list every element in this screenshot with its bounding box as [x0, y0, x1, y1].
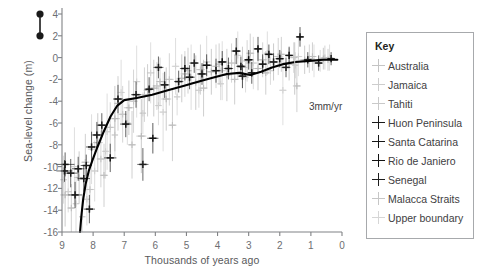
x-tick-label: 2	[265, 240, 295, 251]
legend-marker-plus-icon	[371, 134, 386, 149]
y-axis-title: Sea-level change (m)	[22, 31, 34, 191]
legend-marker-plus-icon	[371, 172, 386, 187]
x-tick-label: 4	[203, 240, 233, 251]
legend-item-label: Senegal	[388, 174, 427, 186]
legend-item-tahiti[interactable]: Tahiti	[367, 94, 473, 113]
x-axis-tick-labels: 9876543210	[0, 236, 481, 256]
legend-marker-plus-icon	[371, 77, 386, 92]
x-axis-title: Thousands of years ago	[62, 254, 342, 266]
legend-marker-plus-icon	[371, 115, 386, 130]
x-tick-label: 6	[140, 240, 170, 251]
legend-marker-plus-icon	[371, 210, 386, 225]
y-tick-label: 4	[18, 9, 58, 20]
x-tick-label: 9	[47, 240, 77, 251]
legend-item-senegal[interactable]: Senegal	[367, 170, 473, 189]
x-tick-label: 3	[234, 240, 264, 251]
legend-box: Key AustraliaJamaicaTahitiHuon Peninsula…	[366, 32, 474, 239]
x-tick-label: 8	[78, 240, 108, 251]
x-tick-label: 5	[171, 240, 201, 251]
x-tick-label: 7	[109, 240, 139, 251]
y-axis-tick-labels: 420-2-4-6-8-10-12-14-16	[14, 0, 58, 275]
legend-marker-plus-icon	[371, 58, 386, 73]
legend-item-rio-de-janiero[interactable]: Rio de Janiero	[367, 151, 473, 170]
legend-item-huon-peninsula[interactable]: Huon Peninsula	[367, 113, 473, 132]
x-tick-label: 0	[327, 240, 357, 251]
legend-item-label: Malacca Straits	[388, 193, 460, 205]
sea-level-chart-figure: 420-2-4-6-8-10-12-14-16 9876543210 Sea-l…	[0, 0, 481, 275]
legend-item-label: Huon Peninsula	[388, 117, 462, 129]
rate-annotation: 3mm/yr	[309, 101, 342, 112]
legend-item-label: Santa Catarina	[388, 136, 458, 148]
legend-item-malacca-straits[interactable]: Malacca Straits	[367, 189, 473, 208]
legend-item-label: Rio de Janiero	[388, 155, 456, 167]
legend-marker-plus-icon	[371, 153, 386, 168]
legend-item-upper-boundary[interactable]: Upper boundary	[367, 208, 473, 227]
legend-item-list: AustraliaJamaicaTahitiHuon PeninsulaSant…	[367, 56, 473, 227]
series-huon-peninsula	[64, 71, 183, 192]
legend-item-label: Australia	[388, 60, 429, 72]
legend-item-australia[interactable]: Australia	[367, 56, 473, 75]
legend-item-santa-catarina[interactable]: Santa Catarina	[367, 132, 473, 151]
legend-item-label: Upper boundary	[388, 212, 463, 224]
legend-item-label: Tahiti	[388, 98, 413, 110]
legend-marker-plus-icon	[371, 96, 386, 111]
x-tick-label: 1	[296, 240, 326, 251]
legend-item-jamaica[interactable]: Jamaica	[367, 75, 473, 94]
legend-title: Key	[375, 40, 473, 52]
series-santa-catarina	[56, 54, 267, 208]
legend-item-label: Jamaica	[388, 79, 427, 91]
legend-marker-plus-icon	[371, 191, 386, 206]
data-series-layer	[56, 27, 335, 232]
y-tick-label: -14	[18, 205, 58, 216]
